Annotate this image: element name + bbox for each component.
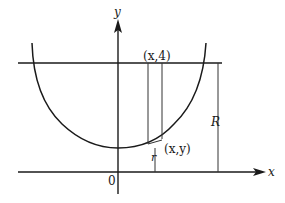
curve [32, 43, 206, 148]
diagram-svg: y x 0 (x,4) (x,y) r R [0, 0, 285, 203]
R-label: R [210, 115, 220, 129]
x-axis [18, 168, 266, 176]
origin-label: 0 [108, 174, 116, 188]
x-axis-label: x [268, 165, 275, 179]
diagram-canvas: y x 0 (x,4) (x,y) r R [0, 0, 285, 203]
y-axis-label: y [113, 5, 121, 19]
top-point-label: (x,4) [143, 49, 171, 63]
y-axis [114, 19, 122, 194]
strip [148, 63, 162, 144]
curve-point-label: (x,y) [164, 142, 191, 156]
r-label: r [151, 151, 157, 164]
